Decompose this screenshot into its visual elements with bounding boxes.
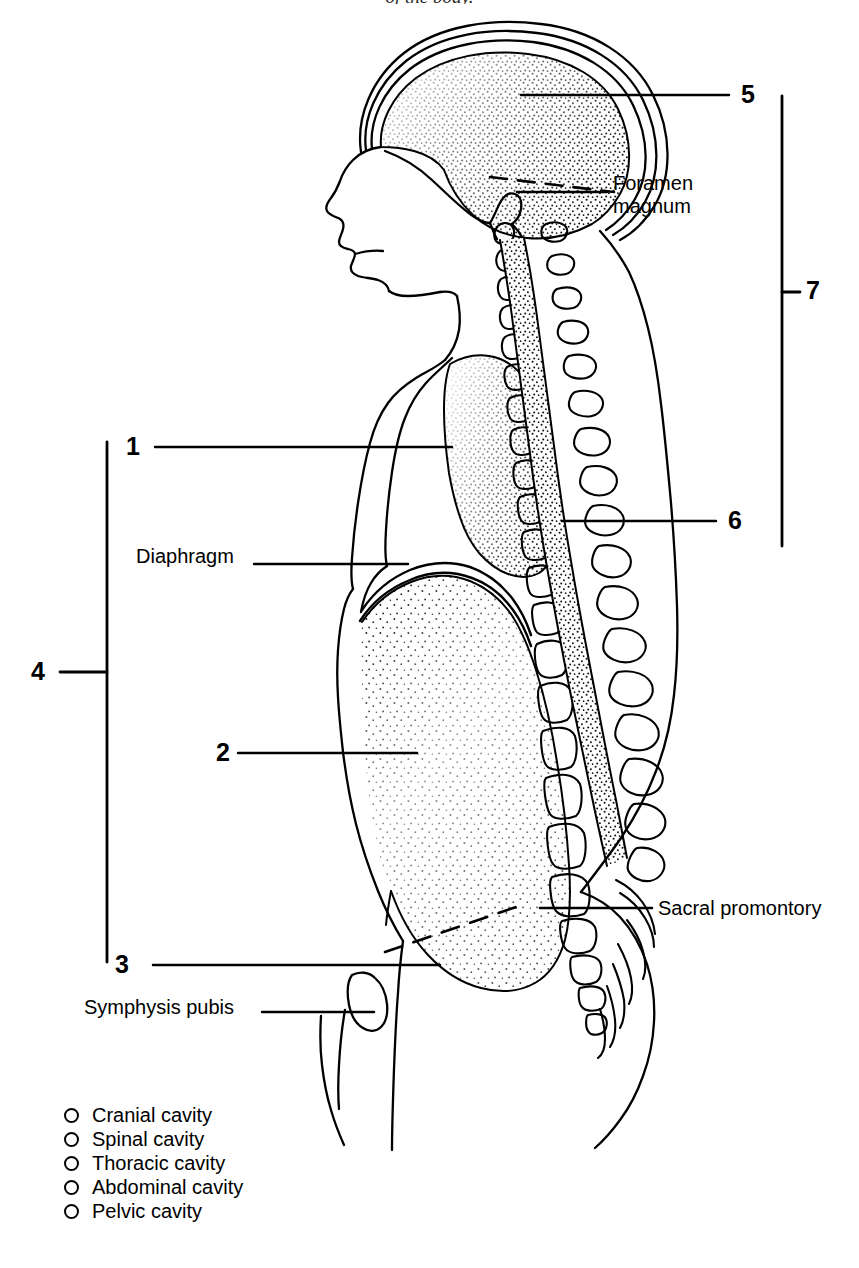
list-item[interactable]: Cranial cavity	[64, 1104, 243, 1127]
bracket-7	[782, 96, 800, 546]
anatomy-diagram	[0, 0, 859, 1268]
label-foramen-magnum: Foramen magnum	[613, 172, 693, 218]
list-item[interactable]: Pelvic cavity	[64, 1200, 243, 1223]
number-label-4: 4	[31, 659, 45, 684]
checkbox-thoracic-cavity[interactable]	[64, 1156, 79, 1171]
number-label-2: 2	[216, 740, 230, 765]
bracket-4	[60, 442, 107, 962]
checkbox-label: Cranial cavity	[92, 1104, 212, 1127]
label-diaphragm: Diaphragm	[136, 545, 234, 568]
checkbox-cranial-cavity[interactable]	[64, 1108, 79, 1123]
symphysis-pubis-bone	[348, 973, 387, 1031]
number-label-3: 3	[115, 952, 129, 977]
checkbox-pelvic-cavity[interactable]	[64, 1204, 79, 1219]
checkbox-label: Thoracic cavity	[92, 1152, 225, 1175]
sacrum-coccyx	[598, 880, 655, 1058]
figure-page: of the body.	[0, 0, 859, 1268]
number-label-1: 1	[126, 434, 140, 459]
cranial-cavity-fill	[381, 52, 629, 238]
checkbox-abdominal-cavity[interactable]	[64, 1180, 79, 1195]
abdominal-cavity-fill	[361, 576, 570, 991]
label-sacral-promontory: Sacral promontory	[658, 897, 821, 920]
face-profile	[326, 147, 457, 296]
list-item[interactable]: Thoracic cavity	[64, 1152, 243, 1175]
number-label-6: 6	[728, 508, 742, 533]
label-symphysis-pubis: Symphysis pubis	[84, 996, 234, 1019]
checkbox-label: Abdominal cavity	[92, 1176, 243, 1199]
checkbox-label: Spinal cavity	[92, 1128, 204, 1151]
number-label-5: 5	[741, 82, 755, 107]
checkbox-spinal-cavity[interactable]	[64, 1132, 79, 1147]
checkbox-label: Pelvic cavity	[92, 1200, 202, 1223]
list-item[interactable]: Spinal cavity	[64, 1128, 243, 1151]
number-label-7: 7	[806, 278, 820, 303]
cavity-checklist: Cranial cavity Spinal cavity Thoracic ca…	[64, 1104, 243, 1224]
list-item[interactable]: Abdominal cavity	[64, 1176, 243, 1199]
